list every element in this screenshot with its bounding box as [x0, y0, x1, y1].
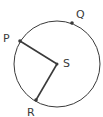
label-R: R	[27, 106, 35, 117]
circle-diagram: P Q S R	[0, 0, 103, 117]
label-S: S	[63, 57, 70, 70]
point-S-dot	[56, 63, 59, 66]
point-P-dot	[18, 39, 22, 43]
point-Q-dot	[70, 21, 74, 25]
segment-SR	[36, 64, 57, 100]
segment-PS	[20, 41, 57, 64]
point-R-dot	[34, 98, 38, 102]
label-P: P	[3, 32, 10, 45]
label-Q: Q	[76, 8, 85, 21]
